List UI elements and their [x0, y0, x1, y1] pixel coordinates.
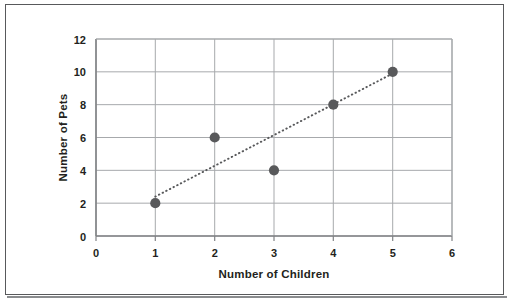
x-tick-label-5: 5: [390, 247, 396, 259]
y-tick-label-2: 2: [80, 198, 86, 210]
scatter-plot-svg: 12 10 8 6 4 2 0 0 1 2 3 4 5 6 Number of …: [6, 5, 505, 296]
data-point-2[interactable]: [210, 132, 220, 142]
x-tick-label-4: 4: [330, 247, 337, 259]
chart-outer-frame: 12 10 8 6 4 2 0 0 1 2 3 4 5 6 Number of …: [5, 4, 504, 295]
x-tick-labels: 0 1 2 3 4 5 6: [93, 247, 455, 259]
y-tick-labels: 12 10 8 6 4 2 0: [74, 34, 87, 243]
x-tick-label-6: 6: [449, 247, 455, 259]
frame-drop-shadow: [7, 296, 507, 298]
y-axis-title: Number of Pets: [57, 94, 69, 182]
x-tick-label-3: 3: [271, 247, 277, 259]
x-tick-label-2: 2: [212, 247, 218, 259]
y-tick-label-12: 12: [74, 34, 86, 46]
x-tick-label-1: 1: [152, 247, 158, 259]
x-axis-title: Number of Children: [219, 268, 330, 280]
y-tick-label-8: 8: [80, 99, 86, 111]
y-tick-label-6: 6: [80, 132, 86, 144]
data-point-3[interactable]: [269, 165, 279, 175]
chart-canvas: 12 10 8 6 4 2 0 0 1 2 3 4 5 6 Number of …: [6, 5, 505, 296]
y-tick-label-0: 0: [80, 231, 86, 243]
y-tick-label-10: 10: [74, 66, 86, 78]
data-point-5[interactable]: [388, 67, 398, 77]
y-tick-label-4: 4: [80, 165, 87, 177]
data-point-4[interactable]: [328, 100, 338, 110]
data-point-1[interactable]: [150, 198, 160, 208]
x-tick-label-0: 0: [93, 247, 99, 259]
